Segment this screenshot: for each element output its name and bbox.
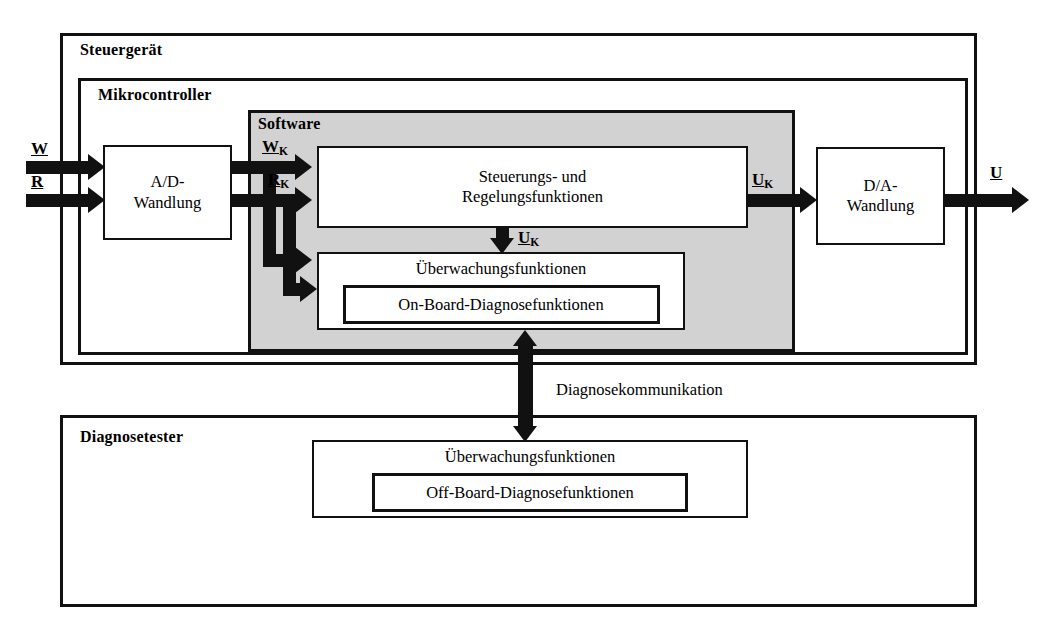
label-steuergeraet: Steuergerät (80, 41, 162, 59)
signal-rk-sub: K (280, 178, 289, 190)
signal-uk-out-sub: K (764, 178, 773, 190)
block-control-functions: Steuerungs- und Regelungsfunktionen (317, 146, 748, 228)
signal-uk-down-sub: K (530, 236, 539, 248)
arrow-wk-branch-head (295, 247, 312, 273)
block-monitoring-offboard: Überwachungsfunktionen Off-Board-Diagnos… (312, 440, 748, 518)
diagram-canvas: Steuergerät Mikrocontroller Software W R… (0, 0, 1041, 635)
signal-r-text: R (31, 172, 43, 191)
block-ad-conversion-label: A/D- Wandlung (134, 172, 201, 212)
signal-u-out-text: U (990, 163, 1002, 182)
arrow-r-bar (26, 194, 88, 207)
block-offboard-diagnosis-label: Off-Board-Diagnosefunktionen (426, 483, 634, 503)
block-ad-conversion: A/D- Wandlung (103, 145, 232, 240)
arrow-rk-branch-head (300, 276, 317, 302)
signal-label-rk: RK (268, 170, 289, 190)
arrow-uk-out-bar (748, 194, 803, 207)
arrow-wk-head (295, 154, 312, 180)
block-onboard-diagnosis-label: On-Board-Diagnosefunktionen (398, 295, 603, 315)
block-control-functions-label: Steuerungs- und Regelungsfunktionen (462, 167, 603, 207)
label-diagnosetester: Diagnosetester (80, 428, 183, 446)
arrow-uk-out-head (800, 187, 817, 213)
block-da-conversion: D/A- Wandlung (816, 147, 945, 245)
signal-w-text: W (31, 139, 48, 158)
arrow-rk-branch-vertical (283, 194, 296, 296)
signal-label-uk-out: UK (752, 170, 773, 190)
signal-wk-sub: K (279, 145, 288, 157)
block-monitoring-onboard: Überwachungsfunktionen On-Board-Diagnose… (317, 252, 685, 330)
signal-label-w: W (31, 139, 48, 159)
block-onboard-diagnosis: On-Board-Diagnosefunktionen (343, 285, 660, 324)
signal-rk-base: R (268, 170, 280, 189)
signal-label-u-out: U (990, 163, 1002, 183)
block-offboard-diagnosis: Off-Board-Diagnosefunktionen (372, 473, 688, 512)
signal-label-wk: WK (262, 137, 288, 157)
arrow-rk-head (295, 187, 312, 213)
signal-uk-out-base: U (752, 170, 764, 189)
arrow-u-out-bar (945, 194, 1013, 207)
block-monitoring-onboard-label: Überwachungsfunktionen (416, 259, 586, 279)
block-da-conversion-label: D/A- Wandlung (847, 176, 914, 216)
signal-uk-down-base: U (518, 228, 530, 247)
arrow-u-out-head (1012, 187, 1029, 213)
signal-wk-base: W (262, 137, 279, 156)
label-diagnosekommunikation: Diagnosekommunikation (556, 380, 723, 400)
block-monitoring-offboard-label: Überwachungsfunktionen (445, 447, 615, 467)
label-software: Software (258, 115, 321, 133)
label-mikrocontroller: Mikrocontroller (98, 86, 212, 104)
signal-label-r: R (31, 172, 43, 192)
signal-label-uk-down: UK (518, 228, 539, 248)
